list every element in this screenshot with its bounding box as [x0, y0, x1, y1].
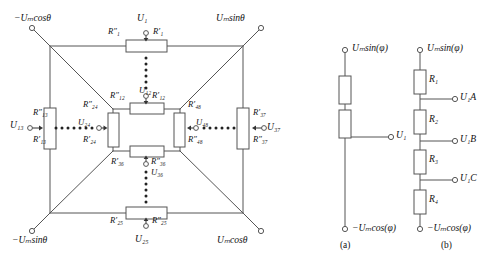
- circuit-figure: [0, 0, 489, 259]
- label-panel-b-resistor-4: R₄: [429, 194, 438, 204]
- resistor-inner-left: [108, 113, 119, 147]
- label-panel-b-resistor-3: R₃: [429, 154, 438, 164]
- label-resistor-inner-left-bottom: R′₂₄: [83, 135, 96, 144]
- label-node-u48: U₄₈: [196, 118, 208, 127]
- panel-b-resistor-3: [414, 150, 426, 174]
- tap-node-u1: [144, 31, 149, 36]
- resistor-outer-top: [126, 40, 167, 52]
- label-node-u24: U₂₄: [78, 118, 90, 127]
- label-panel-b-tap-c: U₁C: [460, 173, 477, 183]
- panel-b-resistor-1: [414, 70, 426, 94]
- panel-a-resistor-1: [339, 76, 351, 104]
- panel-a-top-terminal: [342, 47, 347, 52]
- lead-top-left: [33, 29, 50, 46]
- label-resistor-outer-left-bottom: R′₁₃: [33, 135, 46, 144]
- label-resistor-outer-right-top: R′₃₇: [253, 108, 266, 117]
- label-resistor-outer-right-bottom: R″₃₇: [253, 135, 268, 144]
- panel-b-tap-terminal-c: [452, 177, 457, 182]
- label-node-u25: U₂₅: [135, 234, 149, 244]
- panel-a-bottom-terminal: [342, 226, 347, 231]
- label-corner-bottom-left: −Uₘsinθ: [12, 235, 47, 245]
- tap-node-u25: [144, 224, 149, 229]
- label-resistor-inner-bottom-right: R″₃₆: [151, 157, 166, 166]
- label-resistor-outer-bottom-right: R″₂₅: [152, 216, 167, 225]
- label-resistor-outer-bottom-left: R′₂₅: [110, 216, 123, 225]
- label-panel-b-bottom-terminal: −Uₘcos(φ): [427, 223, 471, 233]
- resistor-outer-right: [237, 108, 249, 149]
- panel-b-top-terminal: [417, 47, 422, 52]
- tap-node-u37: [262, 126, 267, 131]
- label-node-u37: U₃₇: [267, 122, 281, 132]
- terminal-bottom-right: [258, 228, 263, 233]
- label-resistor-outer-top-left: R″₁: [108, 27, 120, 36]
- label-corner-top-left: −Uₘcosθ: [14, 13, 51, 23]
- label-node-u13: U₁₃: [10, 120, 24, 130]
- label-resistor-inner-left-top: R″₂₄: [83, 100, 98, 109]
- label-panel-a-bottom-terminal: −Uₘcos(φ): [352, 223, 396, 233]
- resistor-inner-top: [130, 103, 164, 114]
- label-node-u1: U₁: [137, 13, 147, 23]
- tap-node-u24: [97, 126, 102, 131]
- panel-b-resistor-2: [414, 110, 426, 134]
- label-resistor-inner-right-top: R′₄₈: [188, 100, 201, 109]
- label-resistor-inner-bottom-left: R′₃₆: [111, 157, 124, 166]
- label-resistor-outer-top-right: R′₁: [153, 27, 163, 36]
- caption-panel-b: (b): [441, 241, 452, 250]
- tap-node-u36: [144, 162, 149, 167]
- label-panel-a-top-terminal: Uₘsin(φ): [352, 43, 388, 53]
- panel-b-tap-terminal-b: [452, 138, 457, 143]
- label-panel-b-tap-a: U₁A: [460, 92, 476, 102]
- label-node-u12: U₁₂: [139, 86, 151, 95]
- caption-panel-a: (a): [340, 241, 350, 250]
- label-resistor-inner-right-bottom: R″₄₈: [188, 135, 203, 144]
- lead-bottom-left: [33, 213, 50, 230]
- panel-b-tap-terminal-a: [452, 96, 457, 101]
- lead-bottom-right: [243, 213, 260, 230]
- label-panel-b-tap-b: U₁B: [460, 134, 476, 144]
- label-resistor-outer-left-top: R″₁₃: [33, 108, 48, 117]
- label-corner-top-right: Uₘsinθ: [216, 13, 245, 23]
- lead-top-right: [243, 29, 260, 46]
- label-resistor-inner-top-left: R″₁₂: [110, 91, 125, 100]
- label-node-u36: U₃₆: [151, 168, 163, 177]
- label-panel-b-resistor-2: R₂: [429, 114, 438, 124]
- label-panel-a-tap: U₁: [396, 130, 406, 140]
- terminal-bottom-left: [29, 228, 34, 233]
- panel-a-resistor-2: [339, 110, 351, 138]
- diagonal-tl: [50, 46, 113, 109]
- diagonal-br: [180, 151, 243, 213]
- panel-a-tap-terminal: [388, 134, 393, 139]
- label-panel-b-top-terminal: Uₘsin(φ): [427, 43, 463, 53]
- tap-node-u13: [28, 126, 33, 131]
- terminal-top-right: [258, 25, 263, 30]
- terminal-top-left: [29, 25, 34, 30]
- resistor-inner-right: [174, 113, 185, 147]
- panel-b-bottom-terminal: [417, 226, 422, 231]
- diagonal-bl: [50, 151, 113, 213]
- panel-b-resistor-4: [414, 190, 426, 214]
- label-resistor-inner-top-right: R′₁₂: [152, 91, 165, 100]
- label-corner-bottom-right: Uₘcosθ: [217, 235, 247, 245]
- label-panel-b-resistor-1: R₁: [429, 74, 438, 84]
